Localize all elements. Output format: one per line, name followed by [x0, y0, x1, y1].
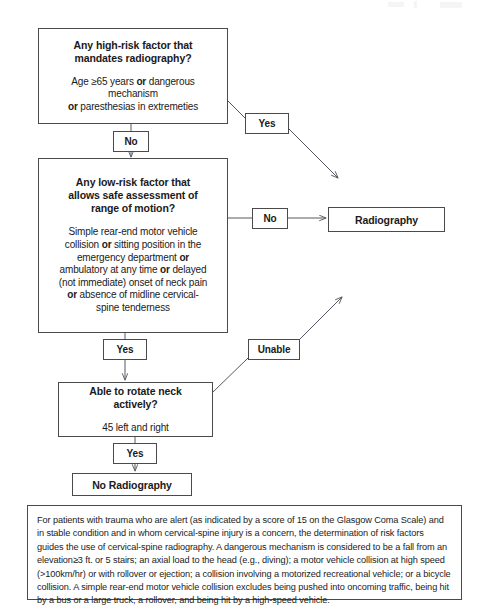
edge-label-yes-rotate[interactable]: Yes	[113, 443, 157, 464]
outcome-box-no-radiography[interactable]: No Radiography	[72, 473, 192, 496]
conjunction-or: or	[179, 252, 189, 263]
edge-highrisk-to-yes	[228, 101, 245, 118]
conjunction-or: or	[102, 239, 112, 250]
low-risk-title-line-2: allows safe assessment of	[68, 189, 197, 201]
rotate-neck-question: Able to rotate neck actively?	[67, 385, 204, 411]
low-risk-criteria-collision: collision	[65, 239, 102, 250]
edge-label-no-high-risk[interactable]: No	[113, 131, 149, 152]
edge-label-unable-rotate[interactable]: Unable	[248, 339, 300, 360]
conjunction-or: or	[67, 289, 77, 300]
high-risk-criteria-mechanism: mechanism	[108, 88, 158, 99]
high-risk-criteria: Age ≥65 years or dangerous mechanism or …	[68, 76, 198, 114]
low-risk-criteria: Simple rear-end motor vehicle collision …	[59, 226, 207, 314]
low-risk-criteria-tenderness: spine tenderness	[96, 302, 170, 313]
low-risk-title-line-1: Any low-risk factor that	[76, 176, 190, 188]
decision-box-low-risk[interactable]: Any low-risk factor that allows safe ass…	[38, 158, 228, 333]
low-risk-criteria-onset: (not immediate) onset of neck pain	[59, 277, 207, 288]
edge-label-yes-low-risk[interactable]: Yes	[103, 339, 147, 360]
edge-yes-highrisk-to-radiography	[289, 129, 338, 178]
low-risk-criteria-sitting: sitting position in the	[111, 239, 201, 250]
low-risk-question: Any low-risk factor that allows safe ass…	[68, 176, 197, 215]
footnote-box: For patients with trauma who are alert (…	[27, 505, 462, 600]
high-risk-criteria-age: Age ≥65 years	[71, 76, 136, 87]
conjunction-or: or	[136, 76, 146, 87]
scan-artifact	[440, 2, 462, 8]
outcome-box-radiography[interactable]: Radiography	[328, 207, 445, 232]
conjunction-or: or	[160, 264, 170, 275]
flowchart-canvas: Any high-risk factor that mandates radio…	[0, 0, 477, 607]
low-risk-title-line-3: range of motion?	[91, 202, 175, 214]
low-risk-criteria-rear-end: Simple rear-end motor vehicle	[68, 226, 197, 237]
decision-box-rotate-neck[interactable]: Able to rotate neck actively? 45 left an…	[58, 382, 213, 437]
footnote-line-7: truck, a rollover, and being hit by a hi…	[114, 595, 330, 605]
edge-rotate-to-unable	[213, 358, 248, 392]
scan-artifact	[388, 2, 404, 7]
low-risk-criteria-absence: absence of midline cervical-	[77, 289, 199, 300]
scan-artifact	[414, 1, 417, 8]
conjunction-or: or	[68, 101, 78, 112]
rotate-neck-detail: 45 left and right	[102, 422, 168, 435]
low-risk-criteria-delayed: delayed	[170, 264, 207, 275]
edge-label-yes-high-risk[interactable]: Yes	[245, 113, 289, 134]
high-risk-criteria-dangerous: dangerous	[146, 76, 195, 87]
high-risk-question: Any high-risk factor that mandates radio…	[74, 39, 193, 65]
decision-box-high-risk[interactable]: Any high-risk factor that mandates radio…	[38, 28, 228, 124]
low-risk-criteria-ambulatory: ambulatory at any time	[60, 264, 161, 275]
low-risk-criteria-ed: emergency department	[77, 252, 179, 263]
high-risk-title-line-2: mandates radiography?	[75, 52, 192, 64]
no-radiography-label: No Radiography	[92, 479, 172, 491]
high-risk-criteria-paresthesias: paresthesias in extremeties	[78, 101, 198, 112]
edge-label-no-low-risk[interactable]: No	[252, 208, 288, 229]
edge-unable-to-radiography	[300, 297, 342, 339]
radiography-label: Radiography	[355, 214, 418, 226]
high-risk-title-line-1: Any high-risk factor that	[74, 39, 193, 51]
